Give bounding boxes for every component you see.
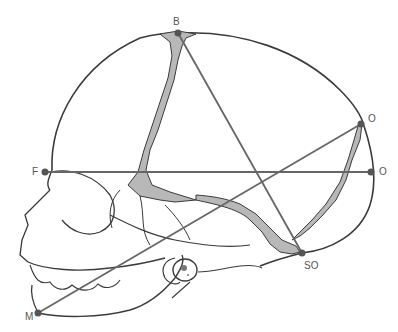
label-O-upper: O — [368, 114, 376, 124]
label-SO: SO — [304, 261, 318, 271]
label-F: F — [32, 167, 38, 177]
label-O-lower: O — [379, 167, 387, 177]
skull-diagram: B O O F SO M — [0, 0, 398, 332]
point-F — [42, 169, 49, 176]
nasal-region — [20, 190, 50, 262]
point-M — [35, 310, 42, 317]
lambdoid-suture — [292, 124, 362, 240]
mandible — [38, 255, 183, 316]
label-B: B — [173, 17, 180, 27]
line-M-O — [38, 124, 361, 313]
point-SO — [299, 250, 306, 257]
skull-illustration — [0, 0, 398, 332]
anterior-fontanelle — [128, 31, 196, 202]
point-B — [175, 30, 182, 37]
cranium-outline — [52, 33, 374, 266]
maxilla — [28, 258, 165, 270]
orbit — [52, 171, 114, 234]
point-O-lower — [368, 169, 375, 176]
point-O-upper — [358, 121, 365, 128]
label-M: M — [25, 312, 33, 322]
